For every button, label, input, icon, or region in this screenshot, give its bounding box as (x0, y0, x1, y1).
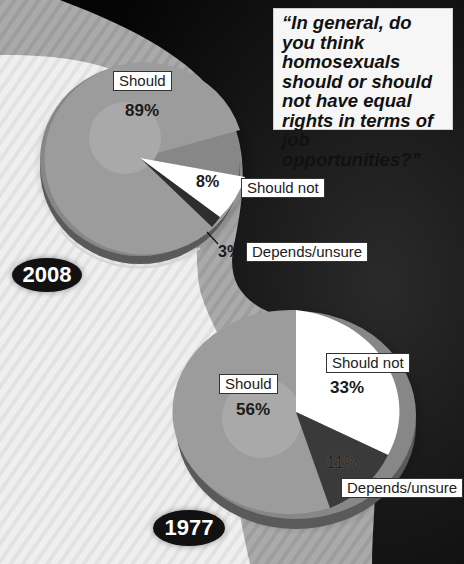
label-should-2008: Should (113, 71, 172, 91)
label-depends-1977: Depends/unsure (341, 478, 463, 498)
pct-should-2008: 89% (125, 101, 159, 121)
survey-question: “In general, do you think homosexuals sh… (273, 8, 453, 130)
pie-2008 (33, 61, 257, 269)
pct-should-not-1977: 33% (330, 378, 364, 398)
pct-should-1977: 56% (236, 400, 270, 420)
label-depends-2008: Depends/unsure (246, 242, 368, 262)
pct-depends-2008: 3% (218, 243, 241, 261)
pct-should-not-2008: 8% (196, 173, 219, 191)
year-badge-2008: 2008 (12, 258, 82, 292)
label-should-1977: Should (219, 374, 278, 394)
pie-1977 (170, 305, 430, 535)
label-should-not-2008: Should not (241, 178, 325, 198)
infographic: “In general, do you think homosexuals sh… (0, 0, 464, 564)
label-should-not-1977: Should not (326, 353, 410, 373)
year-badge-1977: 1977 (153, 510, 225, 546)
pct-depends-1977: 11% (326, 453, 359, 473)
